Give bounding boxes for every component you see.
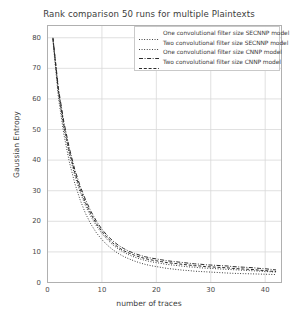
legend-line-swatch-dotted xyxy=(138,29,160,38)
y-tick-10: 10 xyxy=(19,248,41,256)
series-line-3 xyxy=(53,38,276,271)
y-axis-label: Gaussian Entropy xyxy=(12,95,21,195)
x-tick-20: 20 xyxy=(144,286,168,294)
y-tick-60: 60 xyxy=(19,95,41,103)
legend-label: Two convolutional filter size SECNNP mod… xyxy=(163,39,288,48)
x-axis-label: number of traces xyxy=(0,299,298,308)
legend-line-swatch-dotted xyxy=(138,39,160,48)
legend-item-0[interactable]: One convolutional filter size SECNNP mod… xyxy=(138,29,276,39)
x-tick-10: 10 xyxy=(90,286,114,294)
series-line-0 xyxy=(53,39,276,272)
series-line-1 xyxy=(53,41,276,275)
x-tick-30: 30 xyxy=(199,286,223,294)
series-line-2 xyxy=(53,38,276,270)
chart-legend: One convolutional filter size SECNNP mod… xyxy=(134,26,280,71)
x-tick-40: 40 xyxy=(253,286,277,294)
y-tick-40: 40 xyxy=(19,156,41,164)
y-tick-30: 30 xyxy=(19,187,41,195)
chart-figure: Rank comparison 50 runs for multiple Pla… xyxy=(0,0,298,325)
legend-item-1[interactable]: Two convolutional filter size SECNNP mod… xyxy=(138,39,276,49)
y-tick-70: 70 xyxy=(19,64,41,72)
y-tick-50: 50 xyxy=(19,126,41,134)
legend-label: One convolutional filter size CNNP model xyxy=(163,48,282,57)
legend-item-2[interactable]: One convolutional filter size CNNP model xyxy=(138,48,276,58)
y-tick-20: 20 xyxy=(19,217,41,225)
legend-label: Two convolutional filter size CNNP model xyxy=(163,58,281,67)
data-series-group xyxy=(53,38,276,275)
legend-label: One convolutional filter size SECNNP mod… xyxy=(163,29,289,38)
y-tick-80: 80 xyxy=(19,34,41,42)
legend-line-swatch-dashdot xyxy=(138,48,160,57)
x-tick-0: 0 xyxy=(36,286,60,294)
legend-item-3[interactable]: Two convolutional filter size CNNP model xyxy=(138,58,276,68)
legend-line-swatch-dashed xyxy=(138,58,160,67)
